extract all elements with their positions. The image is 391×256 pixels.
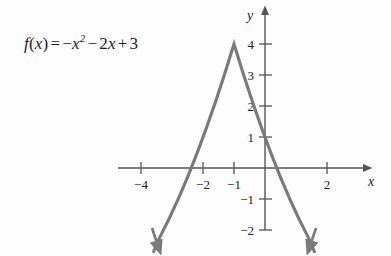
x-tick-label-minus4: −4 bbox=[134, 177, 148, 192]
parabola-curve bbox=[154, 44, 315, 252]
x-tick-label-minus2: −2 bbox=[196, 177, 210, 192]
y-tick-label-minus1: −1 bbox=[240, 192, 254, 207]
y-axis-label: y bbox=[245, 8, 254, 23]
x-tick-label-minus1: −1 bbox=[227, 177, 241, 192]
x-tick-label-2: 2 bbox=[324, 177, 331, 192]
parabola-plot: −4 −2 −1 2 4 3 2 1 −1 −2 x y bbox=[0, 0, 391, 256]
figure-canvas: f(x)=−x2−2x+3 −4 −2 −1 2 bbox=[0, 0, 391, 256]
curve-arrow-right bbox=[311, 228, 316, 243]
y-tick-label-4: 4 bbox=[248, 37, 255, 52]
y-tick-label-3: 3 bbox=[248, 68, 255, 83]
curve-arrow-left bbox=[152, 228, 157, 243]
y-tick-label-1: 1 bbox=[248, 130, 255, 145]
y-tick-label-minus2: −2 bbox=[240, 223, 254, 238]
x-axis-label: x bbox=[367, 174, 375, 189]
